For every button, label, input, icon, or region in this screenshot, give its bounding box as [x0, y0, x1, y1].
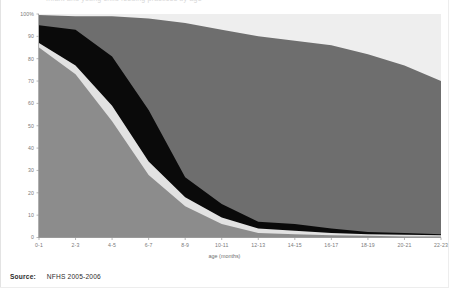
y-axis-tick-label: 50: [18, 123, 34, 129]
x-axis-tick-label: 14-15: [280, 242, 310, 248]
y-axis-tick-label: 20: [18, 190, 34, 196]
y-axis-tick-label: 40: [18, 145, 34, 151]
x-axis-tick-label: 20-21: [389, 242, 419, 248]
chart-plot-area: 0102030405060708090100% 0-12-34-56-78-91…: [0, 0, 449, 288]
figure-container: Infant and young child feeding practices…: [0, 0, 449, 288]
x-axis-tick-label: 4-5: [97, 242, 127, 248]
source-note: Source: NFHS 2005-2006: [10, 273, 101, 280]
x-axis-tick-label: 16-17: [316, 242, 346, 248]
source-label: Source:: [10, 273, 36, 280]
x-axis-tick-label: 10-11: [207, 242, 237, 248]
x-axis-tick-label: 8-9: [170, 242, 200, 248]
x-axis-tick-label: 2-3: [61, 242, 91, 248]
x-axis-tick-label: 0-1: [24, 242, 54, 248]
y-axis-tick-label: 90: [18, 33, 34, 39]
y-axis-tick-label: 70: [18, 78, 34, 84]
y-axis-tick-label: 0: [18, 234, 34, 240]
area-series-group: [39, 14, 441, 238]
source-value: NFHS 2005-2006: [47, 273, 101, 280]
x-axis-tick-label: 6-7: [134, 242, 164, 248]
y-axis-tick-label: 80: [18, 56, 34, 62]
y-axis-tick-label: 60: [18, 100, 34, 106]
y-axis-tick-label: 10: [18, 212, 34, 218]
x-axis-tick-label: 12-13: [243, 242, 273, 248]
y-axis-tick-label: 100%: [14, 11, 34, 17]
x-axis-tick-label: 22-23: [426, 242, 449, 248]
y-axis-tick-label: 30: [18, 167, 34, 173]
x-axis-title: age (months): [0, 253, 449, 259]
x-axis-tick-label: 18-19: [353, 242, 383, 248]
